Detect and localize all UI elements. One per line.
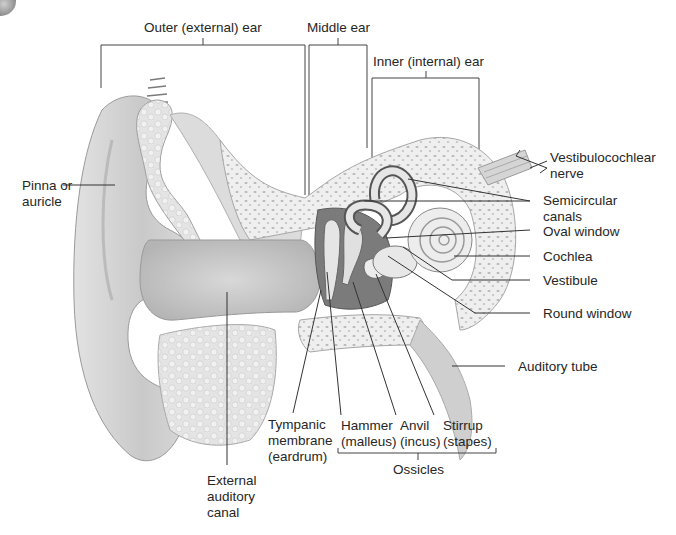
label-stirrup: Stirrup (stapes) <box>443 418 492 450</box>
label-middle-ear: Middle ear <box>307 20 370 36</box>
label-anvil: Anvil (incus) <box>400 418 441 450</box>
cochlea <box>408 208 472 272</box>
label-cochlea: Cochlea <box>543 249 593 265</box>
label-round-window: Round window <box>543 306 632 322</box>
label-auditory-tube: Auditory tube <box>518 359 598 375</box>
label-tympanic-membrane: Tympanic membrane (eardrum) <box>268 417 333 465</box>
label-semicircular-canals: Semicircular canals <box>543 193 617 225</box>
label-vestibule: Vestibule <box>543 273 598 289</box>
label-outer-ear: Outer (external) ear <box>144 20 262 36</box>
label-ossicles: Ossicles <box>393 462 444 478</box>
label-inner-ear: Inner (internal) ear <box>373 54 484 70</box>
label-oval-window: Oval window <box>543 224 620 240</box>
label-vestibulocochlear-nerve: Vestibulocochlear nerve <box>550 150 656 182</box>
label-hammer: Hammer (malleus) <box>341 418 397 450</box>
label-pinna: Pinna or auricle <box>22 178 72 210</box>
external-auditory-canal <box>140 240 320 320</box>
ear-illustration <box>0 0 676 535</box>
label-external-auditory-canal: External auditory canal <box>207 473 257 521</box>
lower-tissue <box>158 325 276 446</box>
